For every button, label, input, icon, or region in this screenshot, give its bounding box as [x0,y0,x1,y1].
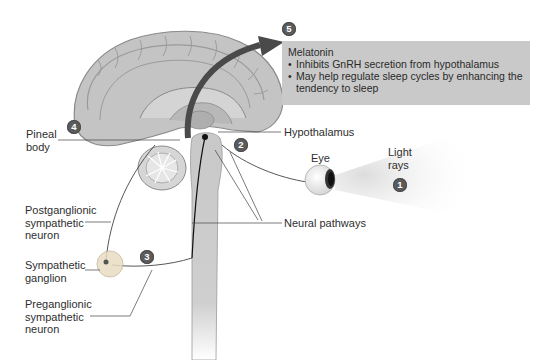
label-eye: Eye [311,152,330,165]
infobox-bullets: Inhibits GnRH secretion from hypothalamu… [288,58,524,94]
melatonin-diagram: 1 2 3 4 5 Melatonin Inhibits GnRH secret… [0,0,541,360]
label-neural-pathways: Neural pathways [284,217,366,230]
cerebellum [138,146,186,190]
label-preganglionic-neuron: Preganglionic sympathetic neuron [25,298,92,336]
brainstem-spinal-cord [191,133,223,360]
light-rays-glow [335,130,480,220]
eye [305,165,335,195]
infobox-bullet: Inhibits GnRH secretion from hypothalamu… [288,58,524,70]
step-3-badge: 3 [140,250,154,264]
step-4-badge: 4 [67,120,81,134]
label-light-rays: Light rays [388,146,412,171]
label-postganglionic-neuron: Postganglionic sympathetic neuron [25,204,97,242]
sympathetic-ganglion [97,251,123,277]
label-sympathetic-ganglion: Sympathetic ganglion [25,259,86,284]
step-5-badge: 5 [282,22,296,36]
infobox-bullet: May help regulate sleep cycles by enhanc… [288,70,524,94]
step-2-badge: 2 [234,138,248,152]
step-1-badge: 1 [393,178,407,192]
label-pineal-body: Pineal body [26,128,57,153]
infobox-title: Melatonin [288,46,524,58]
label-hypothalamus: Hypothalamus [284,126,354,139]
melatonin-infobox: Melatonin Inhibits GnRH secretion from h… [282,41,530,105]
